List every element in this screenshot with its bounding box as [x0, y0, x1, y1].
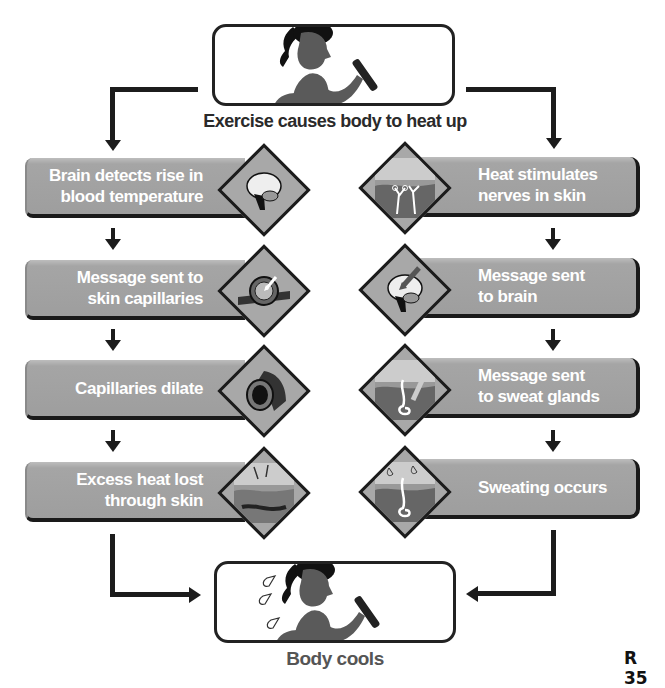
connector-top-left-h: [110, 87, 198, 92]
skin-heat-loss-icon: [217, 446, 310, 539]
step-label: to sweat glands: [478, 386, 600, 407]
start-scene-box: [212, 24, 455, 106]
arrow-down-icon: [546, 138, 562, 149]
connector-bottom-left-h: [110, 592, 190, 597]
arrow-down-icon: [545, 340, 561, 351]
right-step-3: Message sentto sweat glands: [420, 358, 640, 418]
right-step-4: Sweating occurs: [420, 459, 640, 519]
sweat-drop-icon: [263, 576, 275, 586]
step-label: Capillaries dilate: [75, 378, 203, 399]
arrow-down-icon: [545, 441, 561, 452]
step-label: skin capillaries: [77, 288, 203, 309]
left-step-3: Capillaries dilate: [25, 360, 245, 420]
step-label: Message sent: [478, 365, 600, 386]
step-label: Heat stimulates: [478, 164, 598, 185]
connector-top-right-h: [466, 87, 556, 92]
left-step-2: Message sent toskin capillaries: [25, 260, 245, 320]
step-label: Message sent: [478, 265, 585, 286]
arrow-right-icon: [189, 587, 201, 603]
right-step-1: Heat stimulatesnerves in skin: [420, 157, 640, 217]
connector-bottom-left-v: [110, 534, 115, 597]
arrow-down-icon: [105, 340, 121, 351]
arrow-down-icon: [545, 239, 561, 250]
arrow-left-icon: [466, 586, 478, 602]
connector-top-left-v: [110, 87, 115, 143]
arrow-down-icon: [105, 140, 121, 151]
step-label: to brain: [478, 286, 585, 307]
step-label: through skin: [76, 490, 203, 511]
sweat-drop-icon: [267, 618, 279, 628]
capillary-cross-section-icon: [217, 244, 310, 337]
start-caption: Exercise causes body to heat up: [190, 111, 480, 132]
step-label: Excess heat lost: [76, 469, 203, 490]
girl-running-sweating-icon: [217, 564, 456, 643]
girl-running-icon: [215, 27, 455, 106]
skin-nerves-icon: [358, 141, 451, 234]
right-step-2: Message sentto brain: [420, 258, 640, 318]
left-step-1: Brain detects rise inblood temperature: [25, 158, 245, 218]
step-label: blood temperature: [49, 186, 203, 207]
sweat-drop-icon: [259, 594, 271, 604]
connector-bottom-right-v: [551, 530, 556, 596]
step-label: Message sent to: [77, 267, 203, 288]
dilated-vessel-icon: [217, 344, 310, 437]
step-label: Sweating occurs: [478, 477, 607, 498]
connector-top-right-v: [551, 87, 556, 141]
left-step-4: Excess heat lostthrough skin: [25, 462, 245, 522]
connector-bottom-right-h: [477, 591, 556, 596]
end-caption: Body cools: [235, 648, 435, 670]
arrow-down-icon: [105, 441, 121, 452]
step-label: Brain detects rise in: [49, 165, 203, 186]
page-number: R 35: [624, 648, 665, 688]
arrow-down-icon: [105, 239, 121, 250]
end-scene-box: [214, 561, 456, 643]
step-label: nerves in skin: [478, 185, 598, 206]
